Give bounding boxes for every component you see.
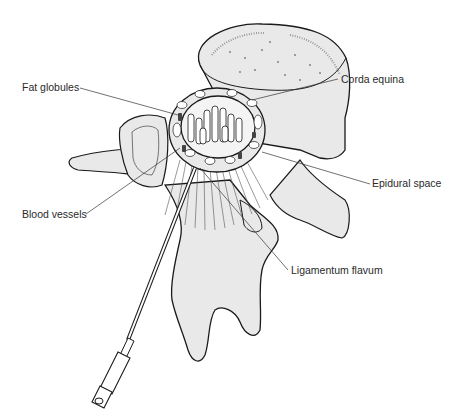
left-articular-process xyxy=(119,115,167,187)
spinal-canal xyxy=(169,88,265,172)
label-epidural-space: Epidural space xyxy=(372,177,441,189)
right-transverse-process xyxy=(270,160,349,238)
label-ligamentum-flavum: Ligamentum flavum xyxy=(291,264,383,276)
label-blood-vessels: Blood vessels xyxy=(22,208,87,220)
label-fat-globules: Fat globules xyxy=(22,81,79,93)
diagram-canvas: Fat globules Corda equina Epidural space… xyxy=(0,0,466,411)
label-corda-equina: Corda equina xyxy=(341,73,404,85)
vertebra-illustration xyxy=(0,0,466,411)
